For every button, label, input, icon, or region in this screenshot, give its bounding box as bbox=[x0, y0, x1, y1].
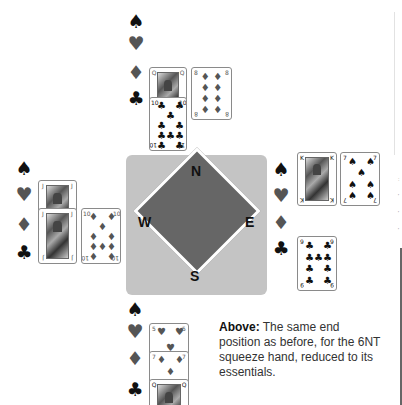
club-icon: ♣ bbox=[305, 241, 314, 251]
diamond-icon: ♦ bbox=[107, 212, 116, 222]
club-icon: ♣ bbox=[323, 264, 332, 274]
heart-icon: ♥ bbox=[127, 34, 145, 53]
diamond-icon: ♦ bbox=[98, 242, 107, 252]
diamond-icon: ♦ bbox=[89, 212, 98, 222]
clipped-text-mark: ' bbox=[398, 210, 399, 216]
compass-east-label: E bbox=[245, 214, 254, 230]
club-icon: ♣ bbox=[157, 141, 166, 151]
card-rank: Q bbox=[181, 382, 187, 388]
diamond-icon: ♦ bbox=[201, 83, 210, 93]
club-icon: ♣ bbox=[15, 243, 33, 262]
spade-icon: ♠ bbox=[357, 168, 366, 178]
diamond-icon: ♦ bbox=[213, 83, 222, 93]
club-icon: ♣ bbox=[175, 101, 184, 111]
diamond-icon: ♦ bbox=[201, 72, 210, 82]
jack-face-icon bbox=[46, 213, 69, 259]
diamond-icon: ♦ bbox=[107, 252, 116, 262]
compass-west-label: W bbox=[138, 214, 151, 230]
caption: Above: The same end position as before, … bbox=[219, 320, 384, 380]
club-icon: ♣ bbox=[175, 141, 184, 151]
card-king-of-spades[interactable]: K K K K bbox=[297, 152, 337, 206]
diamond-icon: ♦ bbox=[127, 63, 145, 82]
king-face-icon bbox=[305, 157, 329, 201]
spade-icon: ♠ bbox=[366, 191, 375, 201]
club-icon: ♣ bbox=[166, 131, 175, 141]
spade-icon: ♠ bbox=[348, 180, 357, 190]
club-icon: ♣ bbox=[323, 276, 332, 286]
compass-north-label: N bbox=[191, 163, 201, 179]
card-ten-of-clubs[interactable]: 10 10 10 10 ♣♣ ♣ ♣♣ ♣♣♣ ♣♣ bbox=[149, 97, 187, 151]
card-rank: J bbox=[69, 183, 75, 189]
diamond-pips: ♦♦ ♦ ♦♦ ♦♦♦ ♦♦ bbox=[89, 212, 113, 260]
diamond-icon: ♦ bbox=[89, 252, 98, 262]
card-jack-of-diamonds[interactable]: J J J J bbox=[38, 208, 77, 264]
queen-face-icon bbox=[157, 384, 181, 405]
spade-icon: ♠ bbox=[126, 300, 144, 319]
card-eight-of-diamonds[interactable]: 8 8 8 8 ♦♦ ♦♦ ♦♦ ♦♦ bbox=[191, 67, 232, 120]
diamond-icon: ♦ bbox=[98, 222, 107, 232]
club-icon: ♣ bbox=[323, 253, 332, 263]
spade-icon: ♠ bbox=[366, 180, 375, 190]
card-nine-of-clubs[interactable]: 9 9 9 9 ♣♣ ♣♣♣ ♣♣ ♣♣ bbox=[297, 236, 337, 291]
spade-pips: ♠♠ ♠ ♠♠ ♠♠ bbox=[348, 156, 372, 202]
club-icon: ♣ bbox=[305, 276, 314, 286]
card-queen-of-clubs[interactable]: Q Q bbox=[149, 379, 189, 405]
heart-icon: ♥ bbox=[126, 322, 144, 341]
heart-icon: ♥ bbox=[15, 185, 33, 204]
spade-icon: ♠ bbox=[348, 191, 357, 201]
club-pips: ♣♣ ♣ ♣♣ ♣♣♣ ♣♣ bbox=[157, 101, 179, 147]
heart-icon: ♥ bbox=[175, 327, 184, 337]
diamond-icon: ♦ bbox=[126, 349, 144, 368]
card-rank: K bbox=[329, 197, 335, 203]
club-pips: ♣♣ ♣♣♣ ♣♣ ♣♣ bbox=[305, 240, 329, 287]
diamond-icon: ♦ bbox=[201, 94, 210, 104]
spade-icon: ♠ bbox=[348, 157, 357, 167]
card-rank: J bbox=[69, 211, 75, 217]
spade-icon: ♠ bbox=[272, 160, 290, 179]
club-icon: ♣ bbox=[126, 380, 144, 399]
diamond-icon: ♦ bbox=[272, 213, 290, 232]
card-ten-of-diamonds[interactable]: 10 10 10 10 ♦♦ ♦ ♦♦ ♦♦♦ ♦♦ bbox=[81, 208, 121, 264]
diamond-icon: ♦ bbox=[213, 72, 222, 82]
club-icon: ♣ bbox=[127, 89, 145, 108]
diamond-icon: ♦ bbox=[175, 355, 184, 365]
compass-south-label: S bbox=[190, 268, 199, 284]
spade-icon: ♠ bbox=[366, 157, 375, 167]
caption-label: Above: bbox=[219, 320, 260, 334]
club-icon: ♣ bbox=[166, 111, 175, 121]
card-rank: K bbox=[329, 155, 335, 161]
diamond-pips: ♦♦ ♦♦ ♦♦ ♦♦ bbox=[199, 71, 224, 116]
spade-icon: ♠ bbox=[15, 159, 33, 178]
card-rank: 8 bbox=[224, 111, 230, 117]
club-icon: ♣ bbox=[305, 253, 314, 263]
club-icon: ♣ bbox=[314, 253, 323, 263]
diamond-icon: ♦ bbox=[213, 105, 222, 115]
club-icon: ♣ bbox=[305, 264, 314, 274]
card-rank: J bbox=[69, 255, 75, 261]
clipped-text-mark: ' bbox=[398, 227, 399, 233]
spade-icon: ♠ bbox=[127, 12, 145, 31]
diamond-icon: ♦ bbox=[157, 355, 166, 365]
club-icon: ♣ bbox=[157, 101, 166, 111]
clipped-text-mark: : bbox=[398, 176, 399, 182]
heart-icon: ♥ bbox=[157, 327, 166, 337]
column-divider bbox=[394, 12, 395, 155]
diamond-icon: ♦ bbox=[166, 367, 175, 377]
diamond-icon: ♦ bbox=[15, 215, 33, 234]
heart-icon: ♥ bbox=[272, 186, 290, 205]
card-rank: 8 bbox=[224, 70, 230, 76]
card-rank: Q bbox=[179, 70, 185, 76]
club-icon: ♣ bbox=[323, 241, 332, 251]
diamond-icon: ♦ bbox=[201, 105, 210, 115]
card-seven-of-spades[interactable]: 7 7 7 7 ♠♠ ♠ ♠♠ ♠♠ bbox=[340, 152, 380, 206]
diamond-icon: ♦ bbox=[213, 94, 222, 104]
clipped-text-mark: ' bbox=[398, 193, 399, 199]
club-icon: ♣ bbox=[272, 239, 290, 258]
